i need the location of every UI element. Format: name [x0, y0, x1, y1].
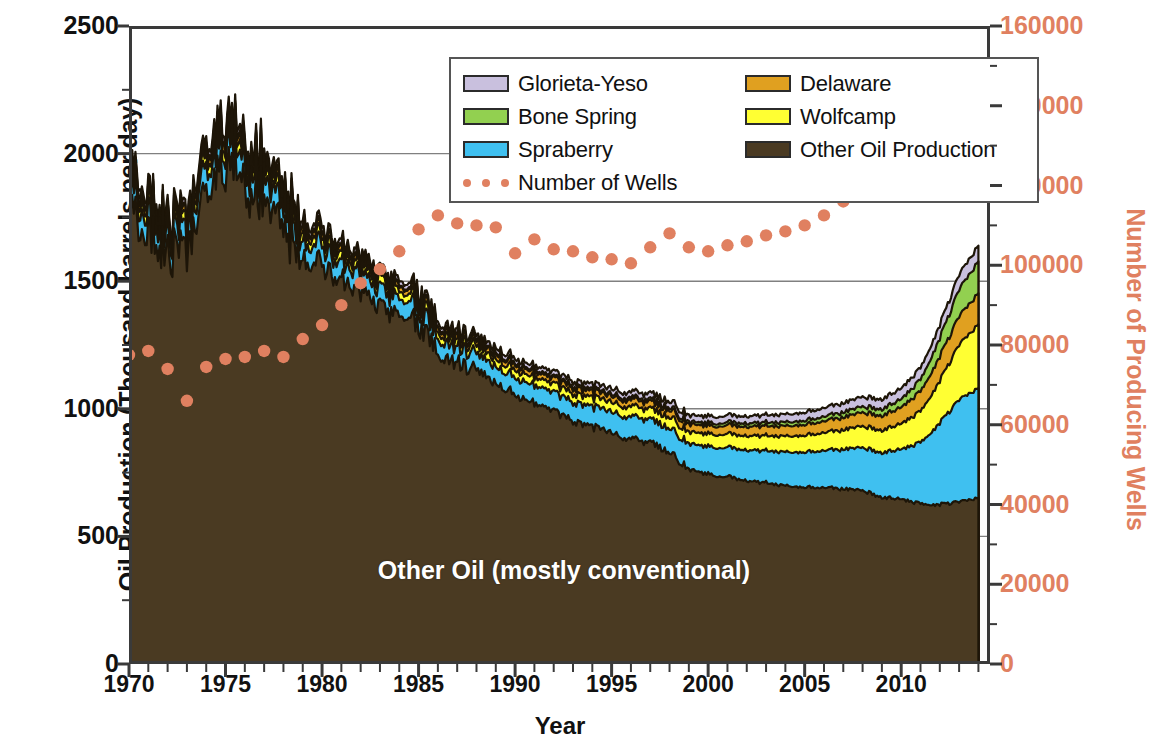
wells-dot: [548, 243, 560, 255]
wells-dot: [374, 263, 386, 275]
wells-dot: [277, 351, 289, 363]
legend-label: Spraberry: [518, 137, 613, 163]
legend-label: Glorieta-Yeso: [518, 71, 648, 97]
wells-dot: [490, 221, 502, 233]
wells-dot: [239, 351, 251, 363]
legend-row: Bone Spring Wolfcamp: [463, 100, 1027, 133]
legend-label: Delaware: [800, 71, 891, 97]
chart-legend: Glorieta-Yeso Delaware Bone Spring Wolfc…: [449, 57, 1039, 203]
legend-swatch-icon: [745, 141, 791, 158]
plot-annotation: Other Oil (mostly conventional): [304, 556, 824, 585]
legend-label: Wolfcamp: [800, 104, 896, 130]
wells-dot: [432, 209, 444, 221]
legend-swatch-icon: [463, 108, 509, 125]
wells-dot: [798, 219, 810, 231]
y-axis-left-tick-label: 2500: [9, 13, 119, 38]
wells-dot: [721, 239, 733, 251]
legend-item-other-oil-production: Other Oil Production: [745, 137, 1027, 163]
wells-dot: [412, 223, 424, 235]
wells-dot: [354, 277, 366, 289]
legend-item-delaware: Delaware: [745, 71, 1027, 97]
legend-label: Number of Wells: [518, 170, 677, 196]
wells-dot: [683, 241, 695, 253]
legend-label: Bone Spring: [518, 104, 637, 130]
wells-dot: [779, 225, 791, 237]
wells-dot: [663, 227, 675, 239]
x-axis-title: Year: [129, 712, 991, 740]
wells-dot: [316, 319, 328, 331]
y-axis-left-tick-label: 1000: [9, 396, 119, 421]
wells-dot: [335, 299, 347, 311]
legend-label: Other Oil Production: [800, 137, 995, 163]
legend-row: Glorieta-Yeso Delaware: [463, 67, 1027, 100]
wells-dot: [605, 253, 617, 265]
x-axis-tick-label: 1975: [171, 673, 281, 696]
y-axis-left-tick-label: 500: [9, 523, 119, 548]
x-axis-tick-label: 2005: [750, 673, 860, 696]
y-axis-right-tick-label: 40000: [1000, 492, 1150, 517]
x-axis-tick-label: 1990: [460, 673, 570, 696]
wells-dot: [470, 219, 482, 231]
legend-dots-icon: [463, 174, 509, 191]
y-axis-right-tick-label: 160000: [1000, 13, 1150, 38]
legend-swatch-icon: [463, 141, 509, 158]
wells-dot: [297, 333, 309, 345]
wells-dot: [528, 233, 540, 245]
legend-row: Spraberry Other Oil Production: [463, 133, 1027, 166]
y-axis-left-ticklabels: 05001000150020002500: [0, 0, 119, 749]
legend-swatch-icon: [463, 75, 509, 92]
x-axis-tick-label: 2000: [653, 673, 763, 696]
wells-dot: [741, 235, 753, 247]
legend-row: Number of Wells: [463, 166, 1027, 199]
x-axis-tick-label: 1995: [557, 673, 667, 696]
x-axis-tick-label: 1970: [74, 673, 184, 696]
legend-item-glorieta-yeso: Glorieta-Yeso: [463, 71, 745, 97]
wells-dot: [393, 245, 405, 257]
y-axis-right-tick-label: 100000: [1000, 252, 1150, 277]
legend-item-spraberry: Spraberry: [463, 137, 745, 163]
legend-item-number-of-wells: Number of Wells: [463, 170, 753, 196]
wells-dot: [586, 251, 598, 263]
x-axis-tick-label: 1985: [364, 673, 474, 696]
x-axis-tick-label: 2010: [846, 673, 956, 696]
wells-dot: [219, 353, 231, 365]
y-axis-right-tick-label: 20000: [1000, 571, 1150, 596]
wells-dot: [142, 345, 154, 357]
y-axis-left-tick-label: 2000: [9, 141, 119, 166]
y-axis-right-tick-label: 80000: [1000, 332, 1150, 357]
wells-dot: [200, 361, 212, 373]
wells-dot: [818, 209, 830, 221]
wells-dot: [644, 241, 656, 253]
legend-swatch-icon: [745, 108, 791, 125]
plot-area: Other Oil (mostly conventional) Glorieta…: [129, 26, 990, 664]
wells-dot: [161, 363, 173, 375]
wells-dot: [760, 229, 772, 241]
wells-dot: [258, 345, 270, 357]
y-axis-right-tick-label: 0: [1000, 651, 1150, 676]
legend-item-bone-spring: Bone Spring: [463, 104, 745, 130]
wells-dot: [625, 257, 637, 269]
wells-dot: [567, 245, 579, 257]
y-axis-left-tick-label: 1500: [9, 268, 119, 293]
wells-dot: [702, 245, 714, 257]
y-axis-right-tick-label: 60000: [1000, 412, 1150, 437]
x-axis-tick-label: 1980: [267, 673, 377, 696]
wells-dot: [181, 395, 193, 407]
legend-swatch-icon: [745, 75, 791, 92]
wells-dot: [451, 217, 463, 229]
wells-dot: [509, 247, 521, 259]
legend-item-wolfcamp: Wolfcamp: [745, 104, 1027, 130]
